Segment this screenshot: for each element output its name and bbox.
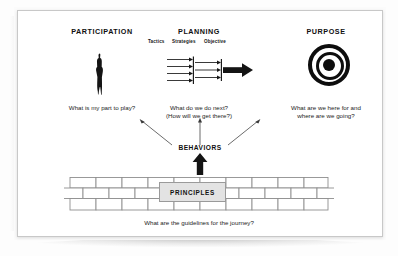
target-center-dot: [323, 59, 335, 71]
bullseye-target-icon: [308, 44, 350, 86]
converging-arrows-icon: [166, 55, 266, 97]
behaviors-outgoing-arrows: [121, 117, 279, 147]
column-heading-participation: PARTICIPATION: [71, 27, 132, 36]
column-heading-purpose: PURPOSE: [307, 27, 346, 36]
stage-label-strategies: Strategies: [172, 39, 196, 44]
behaviors-label: BEHAVIORS: [178, 144, 221, 151]
column-question-purpose-line2: where are we going?: [297, 112, 354, 121]
principles-to-behaviors-arrow: [192, 153, 208, 175]
principles-box: PRINCIPLES: [159, 182, 226, 202]
stage-label-objective: Objective: [204, 39, 226, 44]
scanned-page-background: PARTICIPATION What is my part to play? P…: [0, 0, 398, 256]
stage-label-tactics: Tactics: [148, 39, 165, 44]
paper-shadow-bottom: [16, 238, 384, 247]
column-question-participation: What is my part to play?: [69, 104, 135, 113]
column-heading-planning: PLANNING: [178, 27, 220, 36]
principles-label: PRINCIPLES: [170, 189, 215, 196]
foundation-question: What are the guidelines for the journey?: [144, 219, 254, 226]
person-silhouette-icon: [93, 53, 107, 97]
diagram-paper: PARTICIPATION What is my part to play? P…: [17, 10, 383, 237]
